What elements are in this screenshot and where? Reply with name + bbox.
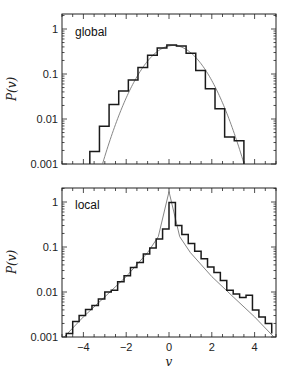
panel-local: 10.10.010.001 −4−2024 local P(v) v — [5, 188, 276, 369]
x-tick-label: 4 — [252, 341, 258, 353]
x-tick-label: 2 — [209, 341, 215, 353]
y-axis-label: P(v) — [5, 250, 19, 276]
histogram-steps — [90, 45, 244, 164]
y-tick-label: 0.01 — [37, 113, 58, 125]
figure: 10.10.010.001 global P(v) 10.10.010.001 … — [0, 0, 291, 376]
x-tick-label: 0 — [166, 341, 172, 353]
y-tick-label: 0.001 — [30, 331, 58, 343]
y-tick-label: 0.1 — [43, 68, 58, 80]
y-axis-label: P(v) — [5, 77, 19, 103]
x-tick-label: −4 — [77, 341, 90, 353]
y-tick-label: 0.001 — [30, 158, 58, 170]
x-tick-labels: −4−2024 — [77, 341, 258, 353]
panel-label: global — [75, 25, 107, 39]
y-tick-labels: 10.10.010.001 — [30, 23, 58, 170]
panel-global: 10.10.010.001 global P(v) — [5, 14, 276, 170]
histogram-steps — [66, 202, 271, 337]
x-axis-label: v — [166, 355, 173, 369]
y-tick-label: 0.01 — [37, 286, 58, 298]
x-tick-label: −2 — [120, 341, 133, 353]
panel-label: local — [75, 198, 100, 212]
y-tick-label: 1 — [52, 196, 58, 208]
y-tick-labels: 10.10.010.001 — [30, 196, 58, 343]
y-tick-label: 1 — [52, 23, 58, 35]
fit-curve — [103, 45, 244, 163]
y-tick-label: 0.1 — [43, 241, 58, 253]
